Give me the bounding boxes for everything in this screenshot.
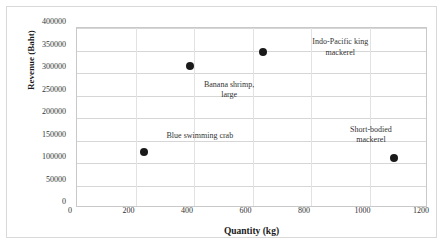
y-axis-tick-label: 400000 xyxy=(4,17,66,26)
x-axis-tick-label: 1000 xyxy=(355,206,371,215)
data-point-marker[interactable] xyxy=(186,62,194,70)
y-axis-tick-label: 50000 xyxy=(4,174,66,183)
plot-area: Blue swimming crabBanana shrimp, largeIn… xyxy=(76,27,427,207)
gridline-vertical xyxy=(136,28,137,206)
data-point-label: Blue swimming crab xyxy=(167,131,234,141)
chart-screenshot: Revenue (Baht) Blue swimming crabBanana … xyxy=(0,0,443,252)
data-point-label: Short-bodied mackerel xyxy=(350,125,392,145)
gridline-horizontal xyxy=(77,118,426,119)
x-axis-tick-label: 1200 xyxy=(413,206,429,215)
figure-frame: Revenue (Baht) Blue swimming crabBanana … xyxy=(6,6,437,238)
y-axis-tick-label: 200000 xyxy=(4,107,66,116)
y-axis-tick-label: 150000 xyxy=(4,129,66,138)
x-axis-tick-label: 400 xyxy=(181,206,193,215)
data-point-label: Indo-Pacific king mackerel xyxy=(312,37,368,57)
gridline-vertical xyxy=(194,28,195,206)
gridline-vertical xyxy=(370,28,371,206)
data-point-marker[interactable] xyxy=(140,148,148,156)
x-axis-tick-label: 600 xyxy=(240,206,252,215)
y-axis-tick-label: 100000 xyxy=(4,152,66,161)
data-point-marker[interactable] xyxy=(259,48,267,56)
x-axis-tick-label: 200 xyxy=(123,206,135,215)
data-point-marker[interactable] xyxy=(390,154,398,162)
data-point-label: Banana shrimp, large xyxy=(204,80,254,100)
gridline-horizontal xyxy=(77,186,426,187)
x-axis-title: Quantity (kg) xyxy=(76,226,427,236)
y-axis-tick-label: 300000 xyxy=(4,62,66,71)
x-axis-tick-label: 800 xyxy=(298,206,310,215)
gridline-horizontal xyxy=(77,28,426,29)
gridline-vertical xyxy=(253,28,254,206)
gridline-horizontal xyxy=(77,73,426,74)
gridline-horizontal xyxy=(77,51,426,52)
y-axis-tick-label: 350000 xyxy=(4,39,66,48)
y-axis-tick-label: 250000 xyxy=(4,84,66,93)
y-axis-tick-label: 0 xyxy=(4,197,66,206)
gridline-horizontal xyxy=(77,163,426,164)
x-axis-tick-label: 0 xyxy=(68,206,72,215)
